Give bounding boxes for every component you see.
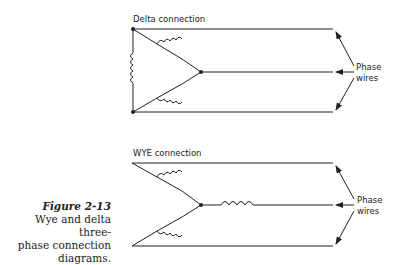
delta-wires-label: wires: [356, 73, 379, 83]
wye-arrow-up-icon: [336, 166, 354, 199]
figure-number: Figure 2-13: [1, 200, 111, 213]
wye-bottom-winding: [132, 205, 201, 246]
wye-middle-winding: [201, 202, 253, 206]
delta-left-winding: [131, 29, 134, 112]
wye-title: WYE connection: [133, 148, 202, 158]
delta-arrow-down-icon: [336, 78, 354, 110]
wye-wires-label: wires: [357, 206, 380, 216]
delta-phase-label: Phase: [356, 62, 381, 72]
delta-diagram: Delta connection: [131, 14, 382, 114]
wye-arrow-down-icon: [336, 211, 354, 244]
delta-top-winding: [133, 29, 201, 72]
wye-phase-label: Phase: [357, 195, 382, 205]
caption-line-2: phase connection: [1, 239, 111, 252]
delta-bottom-winding: [133, 72, 201, 112]
caption-line-1: Wye and delta three-: [1, 213, 111, 239]
delta-arrow-up-icon: [336, 32, 354, 66]
wye-node-center: [199, 203, 203, 207]
wye-top-winding: [132, 163, 201, 205]
figure-caption: Figure 2-13 Wye and delta three- phase c…: [1, 200, 111, 265]
caption-line-3: diagrams.: [1, 252, 111, 265]
wye-diagram: WYE connection Phase wire: [132, 148, 382, 246]
delta-title: Delta connection: [133, 14, 205, 24]
